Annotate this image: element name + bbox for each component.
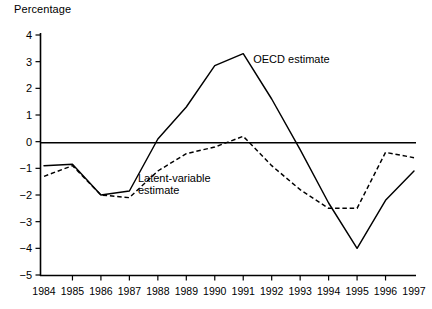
x-tick-label: 1992 (260, 285, 284, 297)
series-annotation-latent-variable-estimate-line1: Latent-variable (138, 172, 211, 184)
series-line-latent-variable-estimate (44, 136, 414, 208)
y-tick-label: 1 (26, 109, 32, 121)
x-tick-label: 1991 (232, 285, 256, 297)
x-tick-label: 1993 (288, 285, 312, 297)
y-tick-label: −1 (19, 162, 32, 174)
x-tick-label: 1995 (345, 285, 369, 297)
x-tick-label: 1997 (402, 285, 426, 297)
x-tick-label: 1985 (61, 285, 85, 297)
x-tick-label: 1987 (118, 285, 142, 297)
line-chart-plot: 43210−1−2−3−4−5 198419851986198719881989… (0, 0, 432, 309)
x-tick-label: 1986 (89, 285, 113, 297)
x-tick-label: 1988 (146, 285, 170, 297)
x-tick-label: 1989 (175, 285, 199, 297)
series-annotation-latent-variable-estimate-line2: estimate (138, 184, 180, 196)
y-tick-label: −3 (19, 216, 32, 228)
x-tick-group: 1984198519861987198819891990199119921993… (32, 276, 426, 298)
series-line-oecd-estimate (44, 54, 414, 249)
series-annotation-oecd-estimate: OECD estimate (253, 53, 329, 65)
y-tick-label: 0 (26, 136, 32, 148)
y-tick-label: 4 (26, 29, 32, 41)
y-tick-label: −2 (19, 189, 32, 201)
y-tick-label: −4 (19, 242, 32, 254)
y-tick-label: 3 (26, 56, 32, 68)
x-tick-label: 1990 (203, 285, 227, 297)
y-tick-label: −5 (19, 269, 32, 281)
x-axis-group: 1984198519861987198819891990199119921993… (32, 276, 426, 298)
x-tick-label: 1996 (374, 285, 398, 297)
x-tick-label: 1994 (317, 285, 341, 297)
chart-container: Percentage 43210−1−2−3−4−5 1984198519861… (0, 0, 432, 309)
x-tick-label: 1984 (32, 285, 56, 297)
y-tick-label: 2 (26, 82, 32, 94)
y-axis-group: 43210−1−2−3−4−5 (19, 29, 40, 281)
y-tick-group: 43210−1−2−3−4−5 (19, 29, 40, 281)
